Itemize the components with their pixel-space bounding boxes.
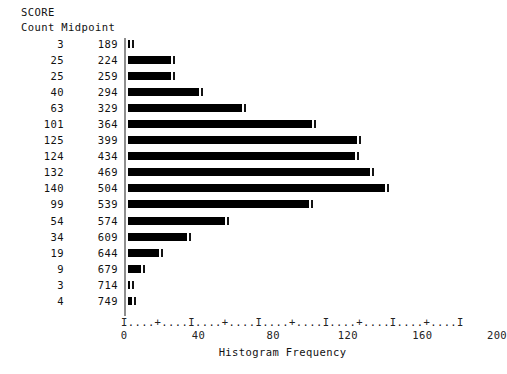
bar-end-marker bbox=[314, 120, 316, 128]
row-midpoint-value: 609 bbox=[70, 229, 118, 245]
page-title: SCORE bbox=[21, 6, 55, 18]
histogram-row: 63329 bbox=[0, 100, 505, 116]
row-midpoint-value: 574 bbox=[70, 213, 118, 229]
row-count-value: 132 bbox=[12, 164, 64, 180]
x-axis-tick-labels: 04080120160200 bbox=[121, 329, 505, 342]
bar-end-marker bbox=[173, 72, 175, 80]
histogram-row: 124434 bbox=[0, 148, 505, 164]
row-count-value: 3 bbox=[12, 36, 64, 52]
x-axis-title: Histogram Frequency bbox=[0, 346, 505, 358]
histogram-row: 140504 bbox=[0, 180, 505, 196]
bar-track bbox=[128, 120, 501, 128]
bar-end-marker bbox=[357, 152, 359, 160]
bar-track bbox=[128, 281, 501, 289]
bar-track bbox=[128, 56, 501, 64]
histogram-bar bbox=[128, 281, 130, 289]
histogram-row: 101364 bbox=[0, 116, 505, 132]
row-count-value: 125 bbox=[12, 132, 64, 148]
bar-track bbox=[128, 297, 501, 305]
histogram-bar bbox=[128, 217, 225, 225]
histogram-row: 34609 bbox=[0, 229, 505, 245]
bar-end-marker bbox=[132, 40, 134, 48]
histogram-bar bbox=[128, 265, 141, 273]
row-midpoint-value: 364 bbox=[70, 116, 118, 132]
row-count-value: 34 bbox=[12, 229, 64, 245]
row-midpoint-value: 399 bbox=[70, 132, 118, 148]
row-midpoint-value: 329 bbox=[70, 100, 118, 116]
histogram-bar bbox=[128, 104, 242, 112]
bar-track bbox=[128, 168, 501, 176]
column-headers: Count Midpoint bbox=[21, 21, 115, 33]
histogram-row: 4749 bbox=[0, 293, 505, 309]
bar-track bbox=[128, 200, 501, 208]
histogram-bar bbox=[128, 152, 355, 160]
bar-track bbox=[128, 152, 501, 160]
histogram-bar bbox=[128, 184, 385, 192]
bar-track bbox=[128, 88, 501, 96]
x-tick-label: 160 bbox=[412, 329, 432, 341]
bar-end-marker bbox=[244, 104, 246, 112]
x-tick-label: 120 bbox=[338, 329, 358, 341]
row-midpoint-value: 224 bbox=[70, 52, 118, 68]
row-midpoint-value: 434 bbox=[70, 148, 118, 164]
row-count-value: 54 bbox=[12, 213, 64, 229]
row-midpoint-value: 644 bbox=[70, 245, 118, 261]
bar-track bbox=[128, 217, 501, 225]
bar-end-marker bbox=[132, 281, 134, 289]
x-axis-ruler: I....+....I....+....I....+....I....+....… bbox=[121, 316, 464, 328]
bar-track bbox=[128, 40, 501, 48]
bar-track bbox=[128, 265, 501, 273]
row-count-value: 124 bbox=[12, 148, 64, 164]
row-midpoint-value: 294 bbox=[70, 84, 118, 100]
row-count-value: 25 bbox=[12, 68, 64, 84]
bar-track bbox=[128, 72, 501, 80]
x-tick-label: 200 bbox=[487, 329, 507, 341]
histogram-bar bbox=[128, 200, 309, 208]
row-count-value: 101 bbox=[12, 116, 64, 132]
row-midpoint-value: 469 bbox=[70, 164, 118, 180]
x-tick-label: 40 bbox=[192, 329, 205, 341]
histogram-row: 132469 bbox=[0, 164, 505, 180]
histogram-bar bbox=[128, 233, 187, 241]
histogram-bar bbox=[128, 56, 171, 64]
bar-end-marker bbox=[189, 233, 191, 241]
row-count-value: 9 bbox=[12, 261, 64, 277]
row-count-value: 25 bbox=[12, 52, 64, 68]
bar-end-marker bbox=[143, 265, 145, 273]
x-tick-label: 80 bbox=[266, 329, 279, 341]
bar-end-marker bbox=[134, 297, 136, 305]
histogram-bar bbox=[128, 136, 357, 144]
histogram-bar bbox=[128, 120, 312, 128]
histogram-row: 25259 bbox=[0, 68, 505, 84]
histogram-row: 99539 bbox=[0, 196, 505, 212]
histogram-bar bbox=[128, 297, 132, 305]
row-count-value: 40 bbox=[12, 84, 64, 100]
histogram-bar bbox=[128, 249, 159, 257]
histogram-row: 3714 bbox=[0, 277, 505, 293]
row-midpoint-value: 749 bbox=[70, 293, 118, 309]
histogram-row: 40294 bbox=[0, 84, 505, 100]
row-count-value: 99 bbox=[12, 196, 64, 212]
histogram-rows: 3189252242525940294633291013641253991244… bbox=[0, 36, 505, 309]
row-midpoint-value: 504 bbox=[70, 180, 118, 196]
row-count-value: 19 bbox=[12, 245, 64, 261]
row-midpoint-value: 679 bbox=[70, 261, 118, 277]
bar-track bbox=[128, 249, 501, 257]
row-count-value: 4 bbox=[12, 293, 64, 309]
bar-track bbox=[128, 104, 501, 112]
row-count-value: 140 bbox=[12, 180, 64, 196]
row-midpoint-value: 259 bbox=[70, 68, 118, 84]
x-tick-label: 0 bbox=[121, 329, 128, 341]
histogram-row: 25224 bbox=[0, 52, 505, 68]
histogram-row: 9679 bbox=[0, 261, 505, 277]
row-midpoint-value: 539 bbox=[70, 196, 118, 212]
bar-end-marker bbox=[372, 168, 374, 176]
row-midpoint-value: 714 bbox=[70, 277, 118, 293]
row-midpoint-value: 189 bbox=[70, 36, 118, 52]
histogram-bar bbox=[128, 40, 130, 48]
histogram-row: 3189 bbox=[0, 36, 505, 52]
bar-track bbox=[128, 184, 501, 192]
bar-end-marker bbox=[161, 249, 163, 257]
bar-end-marker bbox=[311, 200, 313, 208]
